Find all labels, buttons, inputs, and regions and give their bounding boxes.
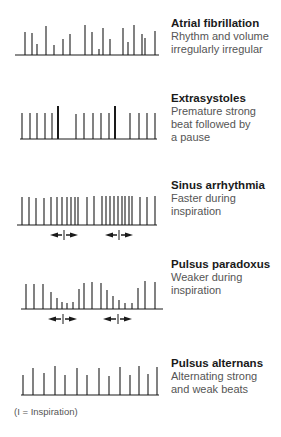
panel-description-line: beat followed by	[171, 118, 281, 131]
trace-atrial-fibrillation	[15, 25, 159, 55]
arrow-right-icon	[70, 233, 78, 238]
inspiration-marker	[105, 230, 133, 240]
arrow-right-icon	[125, 233, 133, 238]
panel-description-line: Premature strong	[171, 105, 281, 118]
arrow-left-icon	[105, 233, 113, 238]
trace-pulsus-paradoxus	[21, 281, 163, 324]
panel-title: Sinus arrhythmia	[171, 179, 281, 192]
panel-description-line: inspiration	[171, 205, 281, 218]
panel-title: Atrial fibrillation	[171, 17, 281, 30]
trace-pulsus-alternans	[21, 366, 159, 395]
panel-description-line: irregularly irregular	[171, 43, 281, 56]
inspiration-marker	[48, 314, 77, 324]
panel-description-line: Alternating strong	[171, 370, 281, 383]
label-pulsus-paradoxus: Pulsus paradoxus Weaker during inspirati…	[171, 258, 281, 297]
inspiration-marker	[50, 230, 78, 240]
arrow-right-icon	[69, 317, 77, 322]
arrow-left-icon	[103, 317, 111, 322]
panel-title: Pulsus alternans	[171, 357, 281, 370]
arrow-left-icon	[48, 317, 56, 322]
label-extrasystoles: Extrasystoles Premature strong beat foll…	[171, 92, 281, 144]
inspiration-marker	[103, 314, 132, 324]
footnote-legend: (I = Inspiration)	[14, 406, 78, 417]
arrow-left-icon	[50, 233, 58, 238]
label-atrial-fibrillation: Atrial fibrillation Rhythm and volume ir…	[171, 17, 281, 56]
panel-description-line: Faster during	[171, 192, 281, 205]
trace-extrasystoles	[20, 106, 157, 139]
panel-title: Extrasystoles	[171, 92, 281, 105]
panel-description-line: a pause	[171, 131, 281, 144]
label-sinus-arrhythmia: Sinus arrhythmia Faster during inspirati…	[171, 179, 281, 218]
panel-description-line: Rhythm and volume	[171, 30, 281, 43]
trace-sinus-arrhythmia	[17, 196, 157, 240]
label-pulsus-alternans: Pulsus alternans Alternating strong and …	[171, 357, 281, 396]
panel-description-line: inspiration	[171, 284, 281, 297]
panel-description-line: Weaker during	[171, 271, 281, 284]
panel-description-line: and weak beats	[171, 383, 281, 396]
panel-title: Pulsus paradoxus	[171, 258, 281, 271]
arrow-right-icon	[124, 317, 132, 322]
